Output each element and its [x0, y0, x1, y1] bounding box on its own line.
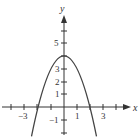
y-axis-label: y — [59, 3, 65, 14]
x-tick-label: 1 — [75, 111, 80, 121]
y-tick-label: 3 — [55, 64, 60, 74]
x-tick-label: 3 — [101, 111, 106, 121]
x-tick-label: −3 — [18, 111, 28, 121]
y-axis-arrow-icon — [61, 15, 67, 23]
parabola-chart: −3 1 3 x 5 3 2 1 −1 y — [0, 0, 138, 137]
y-tick-label: 5 — [54, 38, 59, 48]
x-axis-label: x — [132, 102, 138, 113]
x-axis-arrow-icon — [123, 104, 131, 110]
x-axis: −3 1 3 x — [2, 102, 138, 121]
y-tick-label: 1 — [55, 89, 60, 99]
y-axis: 5 3 2 1 −1 y — [49, 3, 67, 135]
y-tick-label: 2 — [55, 77, 60, 87]
y-tick-label: −1 — [49, 115, 59, 125]
